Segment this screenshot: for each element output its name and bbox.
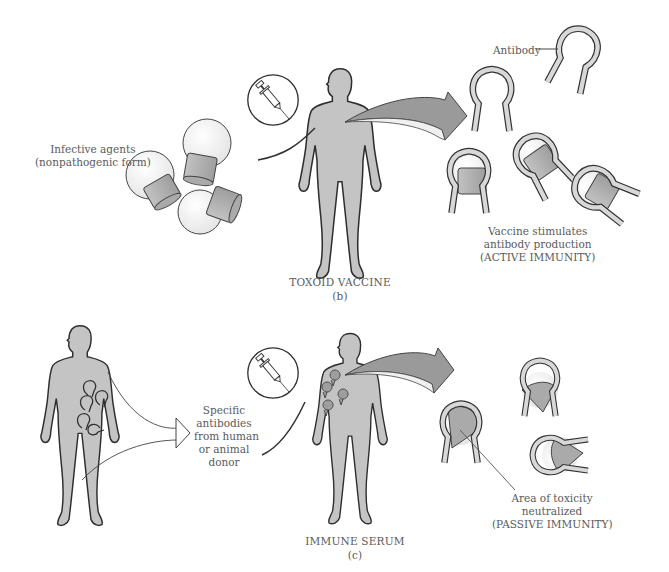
transfer-line	[108, 372, 178, 428]
passive-immunity-label: Area of toxicity neutralized (PASSIVE IM…	[492, 492, 612, 531]
antibody-bound-1	[450, 150, 490, 213]
active-immunity-label: Vaccine stimulates antibody production (…	[480, 225, 595, 264]
transfer-arrow-icon	[176, 418, 190, 448]
neutralized-toxin-3	[533, 437, 588, 473]
infective-agents-label: Infective agents (nonpathogenic form)	[35, 143, 151, 169]
antibody-bound-3	[564, 158, 641, 226]
neutralized-toxin-1	[440, 404, 480, 463]
neutralized-toxin-2	[522, 361, 558, 416]
antibody-label: Antibody	[493, 44, 541, 57]
toxicity-pointer	[460, 430, 515, 490]
syringe-icon	[248, 75, 298, 125]
antibody-icon	[473, 69, 511, 131]
syringe-icon	[248, 348, 298, 398]
toxoid-vaccine-caption: TOXOID VACCINE (b)	[285, 275, 395, 303]
antibody-icon	[546, 23, 603, 94]
donor-antibodies-label: Specific antibodies from human or animal…	[194, 404, 254, 469]
infective-agent-3	[178, 186, 244, 234]
injection-pointer	[262, 402, 305, 455]
infective-agent-2	[183, 119, 231, 187]
immune-serum-caption: IMMUNE SERUM (c)	[300, 534, 410, 562]
person-figure-toxoid	[299, 69, 381, 278]
antibody-bound-2	[506, 124, 577, 201]
